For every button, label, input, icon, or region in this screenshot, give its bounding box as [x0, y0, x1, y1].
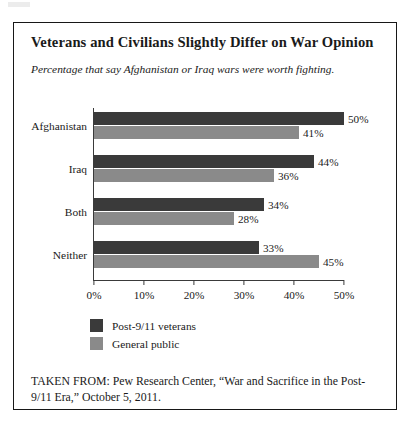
x-axis-tick-label: 10% [134, 289, 155, 301]
chart-legend: Post-9/11 veteransGeneral public [14, 319, 398, 355]
bar-value-label: 45% [323, 256, 344, 268]
x-axis-tick-label: 50% [334, 289, 355, 301]
bar-public: 41% [94, 126, 299, 139]
bar-veterans: 34% [94, 198, 264, 211]
bar-chart: Afghanistan50%41%Iraq44%36%Both34%28%Nei… [14, 105, 398, 310]
legend-swatch-icon [90, 337, 103, 350]
bar-group: Both34%28% [94, 198, 344, 226]
category-label: Afghanistan [31, 120, 87, 132]
category-label: Both [65, 206, 87, 218]
bar-value-label: 44% [318, 156, 339, 168]
source-note: TAKEN FROM: Pew Research Center, “War an… [31, 373, 371, 406]
x-axis-tick [143, 280, 144, 285]
legend-item: General public [14, 337, 398, 350]
x-axis-tick [343, 280, 344, 285]
bar-public: 36% [94, 169, 274, 182]
bar-value-label: 36% [278, 170, 299, 182]
legend-label: General public [112, 338, 179, 350]
scan-artifact [8, 2, 30, 7]
figure-inner: Veterans and Civilians Slightly Differ o… [14, 23, 396, 409]
x-axis-tick [193, 280, 194, 285]
x-axis-tick [93, 280, 94, 285]
bar-value-label: 33% [263, 242, 284, 254]
x-axis-tick-label: 40% [284, 289, 305, 301]
figure-subtitle: Percentage that say Afghanistan or Iraq … [31, 63, 382, 77]
bar-value-label: 34% [268, 199, 289, 211]
figure-title: Veterans and Civilians Slightly Differ o… [31, 34, 382, 51]
plot-area: Afghanistan50%41%Iraq44%36%Both34%28%Nei… [93, 108, 344, 281]
legend-item: Post-9/11 veterans [14, 319, 398, 332]
legend-label: Post-9/11 veterans [112, 320, 196, 332]
bar-group: Afghanistan50%41% [94, 112, 344, 140]
bar-value-label: 50% [348, 113, 369, 125]
x-axis-tick-label: 20% [184, 289, 205, 301]
x-axis-tick-label: 0% [87, 289, 102, 301]
legend-swatch-icon [90, 319, 103, 332]
x-axis-tick-label: 30% [234, 289, 255, 301]
bar-group: Neither33%45% [94, 241, 344, 269]
category-label: Iraq [69, 163, 87, 175]
bar-veterans: 44% [94, 155, 314, 168]
bar-value-label: 41% [303, 127, 324, 139]
x-axis-tick [293, 280, 294, 285]
bar-public: 45% [94, 255, 319, 268]
bar-veterans: 33% [94, 241, 259, 254]
x-axis-tick [243, 280, 244, 285]
bar-veterans: 50% [94, 112, 344, 125]
bar-group: Iraq44%36% [94, 155, 344, 183]
bar-value-label: 28% [238, 213, 259, 225]
category-label: Neither [53, 249, 87, 261]
figure-frame: Veterans and Civilians Slightly Differ o… [13, 22, 397, 410]
bar-public: 28% [94, 212, 234, 225]
